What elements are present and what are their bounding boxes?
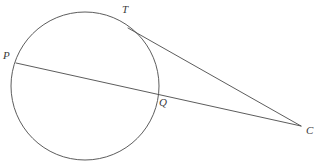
tangent-line-TC — [128, 28, 301, 126]
point-label-c: C — [306, 125, 313, 136]
main-circle — [11, 12, 159, 160]
point-label-t: T — [122, 4, 128, 15]
point-label-q: Q — [159, 97, 167, 108]
point-label-p: P — [3, 50, 10, 61]
geometry-figure: P T Q C — [0, 0, 321, 163]
geometry-canvas — [0, 0, 321, 163]
secant-line-PC — [16, 63, 301, 126]
